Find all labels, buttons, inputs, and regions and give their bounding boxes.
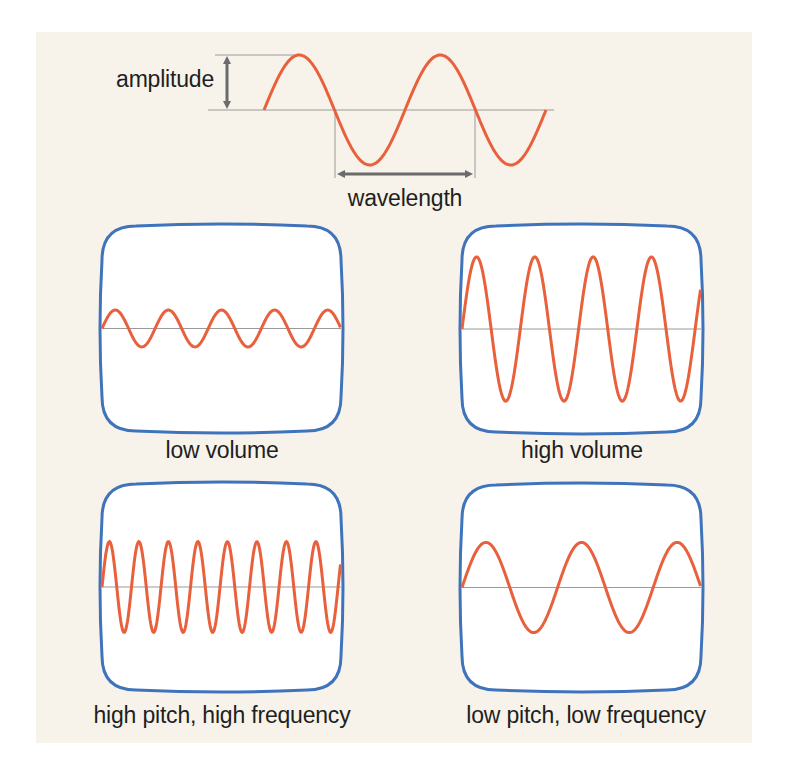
panel-low-volume (100, 224, 343, 433)
reference-wave-group (208, 55, 554, 178)
panel-label-high-pitch: high pitch, high frequency (36, 702, 408, 729)
panel-label-high-volume: high volume (462, 437, 702, 464)
panel-label-low-pitch: low pitch, low frequency (420, 702, 752, 729)
panel-low-pitch (460, 483, 703, 692)
panel-high-pitch (100, 482, 343, 692)
panel-high-volume (460, 224, 703, 434)
wavelength-label: wavelength (320, 185, 490, 212)
panel-label-low-volume: low volume (102, 437, 342, 464)
sound-wave-diagram (0, 0, 786, 781)
amplitude-label: amplitude (100, 66, 214, 93)
